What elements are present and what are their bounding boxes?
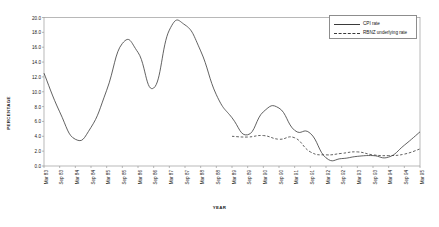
x-axis-tick-label: Sep 86 [153,170,158,185]
x-axis-tick-label: Sep 90 [278,170,283,185]
legend-swatch-solid-line-icon [334,21,360,27]
x-axis-tick-label: Mar 94 [388,170,393,184]
plot-frame [44,18,420,167]
chart-container: PERCENTAGE 0.02.04.06.08.010.012.014.016… [0,0,439,227]
legend-item-cpi-rate: CPI rate [334,19,412,28]
x-axis-tick-label: Sep 92 [341,170,346,185]
x-axis-title: YEAR [0,205,439,210]
x-axis-tick-label: Mar 92 [325,170,330,184]
x-axis-tick-label: Mar 84 [75,170,80,184]
x-axis-tick-label: Mar 89 [231,170,236,184]
chart-legend: CPI rate RBNZ underlying rate [329,15,417,39]
x-axis-tick-label: Sep 84 [90,170,95,185]
x-axis-tick-label: Mar 90 [263,170,268,184]
legend-label: RBNZ underlying rate [363,30,407,35]
legend-label: CPI rate [363,21,380,26]
legend-item-rbnz-underlying-rate: RBNZ underlying rate [334,28,412,37]
x-axis-tick-label: Sep 89 [247,170,252,185]
x-axis-tick-label: Mar 85 [106,170,111,184]
x-axis-tick-label: Mar 88 [200,170,205,184]
x-axis-tick-label: Sep 88 [216,170,221,185]
x-axis-tick-label: Mar 87 [169,170,174,184]
x-axis-tick-label: Sep 91 [310,170,315,185]
x-axis-tick-labels: Mar 83Sep 83Mar 84Sep 84Mar 85Sep 85Mar … [0,170,439,210]
x-axis-tick-label: Mar 86 [137,170,142,184]
x-axis-tick-label: Mar 95 [419,170,424,184]
x-axis-tick-label: Sep 85 [122,170,127,185]
x-axis-tick-label: Sep 93 [372,170,377,185]
x-axis-tick-label: Mar 93 [357,170,362,184]
legend-swatch-dashed-line-icon [334,30,360,36]
x-axis-tick-label: Sep 87 [184,170,189,185]
x-axis-tick-label: Mar 91 [294,170,299,184]
x-axis-tick-label: Mar 83 [43,170,48,184]
x-axis-tick-label: Sep 83 [59,170,64,185]
x-axis-tick-label: Sep 94 [404,170,409,185]
